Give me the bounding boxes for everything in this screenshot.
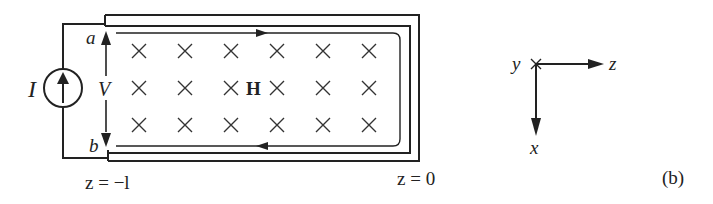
field-label: H <box>246 78 261 99</box>
y-axis-label: y <box>510 53 521 74</box>
z-axis-label: z <box>608 53 617 74</box>
terminal-b-label: b <box>89 135 99 156</box>
voltage-arrow-down-icon <box>101 133 111 147</box>
right-end-label: z = 0 <box>397 168 435 189</box>
figure-canvas: I V a b H z = −l z = 0 <box>0 0 713 204</box>
source-label: I <box>27 76 37 102</box>
x-axis-arrow-icon <box>531 118 541 136</box>
terminal-a-label: a <box>86 27 96 48</box>
current-arrow-bottom <box>256 142 268 150</box>
left-end-label: z = −l <box>85 172 130 193</box>
current-arrow-top <box>256 29 268 37</box>
voltage-label: V <box>98 78 113 100</box>
voltage-arrow-up-icon <box>101 31 111 45</box>
coordinate-axes <box>531 59 604 136</box>
panel-label: (b) <box>662 167 684 189</box>
x-axis-label: x <box>529 137 539 158</box>
current-source-icon <box>44 69 82 107</box>
z-axis-arrow-icon <box>588 59 604 69</box>
